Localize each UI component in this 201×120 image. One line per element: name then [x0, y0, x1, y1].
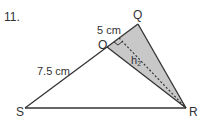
vertex-r-label: R: [189, 105, 198, 119]
length-oq-label: 5 cm: [97, 24, 121, 36]
problem-number: 11.: [4, 10, 20, 24]
shaded-triangle-oqr: [107, 24, 186, 108]
length-so-label: 7.5 cm: [37, 65, 70, 77]
vertex-o-label: O: [98, 38, 107, 52]
vertex-q-label: Q: [133, 8, 142, 22]
vertex-s-label: S: [16, 105, 24, 119]
triangle-diagram: 11. Q O S R 5 cm 7.5 cm h2: [0, 0, 201, 120]
